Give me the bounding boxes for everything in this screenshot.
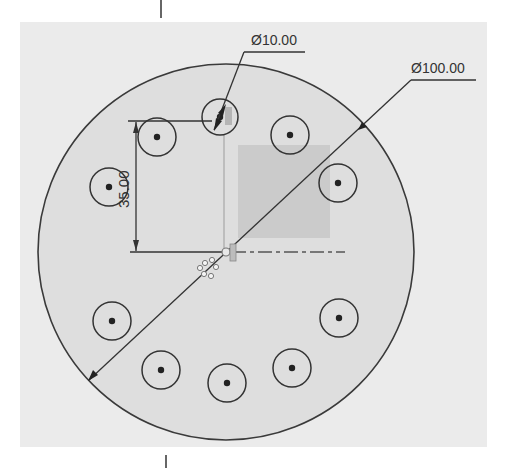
sketch-canvas[interactable]: 35.00 Ø10.00 Ø100.00 (0, 0, 508, 468)
hole-diameter-label[interactable]: Ø10.00 (251, 32, 297, 48)
origin-point-icon[interactable] (222, 248, 230, 256)
dimension-35-label[interactable]: 35.00 (115, 170, 132, 208)
outer-diameter-label[interactable]: Ø100.00 (411, 60, 465, 76)
shaded-region (238, 145, 330, 238)
constraint-glyph-icon (225, 107, 232, 125)
sketch-svg[interactable]: 35.00 Ø10.00 Ø100.00 (0, 0, 508, 468)
coincident-constraint-icon[interactable] (230, 244, 236, 261)
